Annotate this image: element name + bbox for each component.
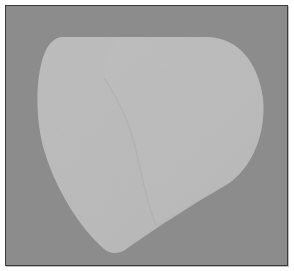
frustum-render xyxy=(0,0,294,271)
